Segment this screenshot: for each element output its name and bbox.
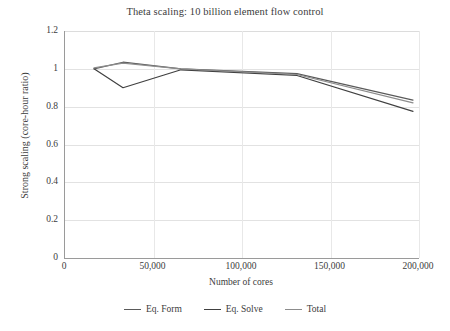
legend-item[interactable]: Eq. Form: [124, 305, 182, 315]
y-axis-tick-label: 0.2: [12, 214, 58, 224]
legend-label: Eq. Solve: [226, 305, 263, 315]
y-axis-tick-label: 1.2: [12, 25, 58, 35]
series-lines: [65, 31, 419, 258]
y-axis-tick-label: 1: [12, 63, 58, 73]
x-axis-tick-label: 50,000: [113, 261, 193, 271]
legend-item[interactable]: Eq. Solve: [204, 305, 263, 315]
gridline-vertical: [419, 31, 420, 258]
legend-line-swatch-icon: [285, 309, 302, 310]
x-axis-tick-label: 100,000: [201, 261, 281, 271]
series-line: [94, 69, 413, 112]
y-axis-tick-label: 0.6: [12, 139, 58, 149]
plot-area: [64, 31, 419, 259]
x-axis-tick-label: 200,000: [378, 261, 450, 271]
legend-item[interactable]: Total: [285, 305, 326, 315]
chart-legend: Eq. FormEq. SolveTotal: [0, 305, 450, 315]
x-axis-tick-label: 0: [24, 261, 104, 271]
x-axis-tick-label: 150,000: [290, 261, 370, 271]
series-line: [94, 62, 413, 100]
chart-title: Theta scaling: 10 billion element flow c…: [0, 6, 450, 17]
chart-container: Theta scaling: 10 billion element flow c…: [0, 0, 450, 331]
legend-line-swatch-icon: [124, 309, 141, 310]
legend-label: Eq. Form: [146, 305, 182, 315]
x-axis-title: Number of cores: [64, 277, 418, 287]
legend-label: Total: [307, 305, 326, 315]
y-axis-tick-label: 0.4: [12, 176, 58, 186]
legend-line-swatch-icon: [204, 309, 221, 310]
y-axis-tick-label: 0.8: [12, 101, 58, 111]
